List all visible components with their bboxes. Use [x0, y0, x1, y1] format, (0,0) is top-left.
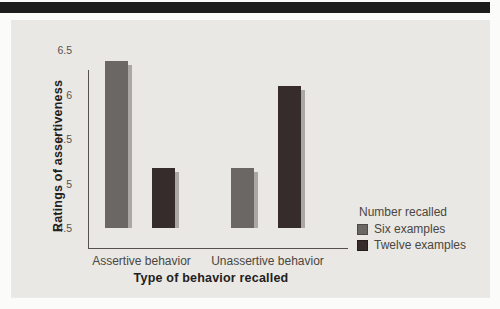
- legend-item: Twelve examples: [357, 240, 466, 250]
- legend-title: Number recalled: [359, 205, 466, 219]
- bar-twelve-examples-assertive-behavior: [152, 168, 175, 228]
- legend-item-label: Six examples: [374, 222, 445, 236]
- header-stripe: [0, 2, 490, 13]
- legend-item: Six examples: [357, 224, 466, 234]
- y-axis: [88, 70, 89, 249]
- y-axis-title: Ratings of assertiveness: [51, 80, 65, 232]
- figure-panel: 4.555.566.5 Assertive behaviorUnassertiv…: [11, 20, 490, 297]
- category-label: Unassertive behavior: [198, 254, 338, 268]
- category-label: Assertive behavior: [72, 254, 212, 268]
- bar-six-examples-assertive-behavior: [105, 61, 128, 228]
- bar-six-examples-unassertive-behavior: [231, 168, 254, 228]
- legend-item-label: Twelve examples: [374, 238, 466, 252]
- legend-items: Six examplesTwelve examples: [357, 224, 466, 250]
- x-axis-title: Type of behavior recalled: [134, 271, 289, 285]
- legend: Number recalled Six examplesTwelve examp…: [357, 205, 466, 256]
- legend-swatch-icon: [357, 224, 368, 235]
- legend-swatch-icon: [357, 240, 368, 251]
- page: 4.555.566.5 Assertive behaviorUnassertiv…: [0, 0, 500, 309]
- bar-twelve-examples-unassertive-behavior: [278, 86, 301, 228]
- y-tick-label: 6.5: [38, 44, 72, 56]
- x-axis: [88, 248, 348, 249]
